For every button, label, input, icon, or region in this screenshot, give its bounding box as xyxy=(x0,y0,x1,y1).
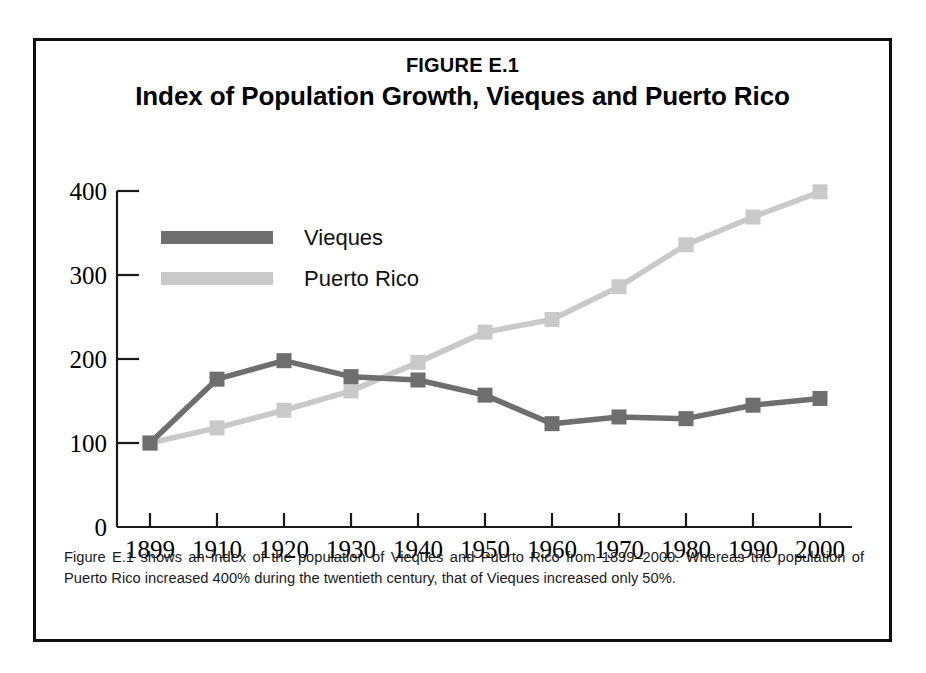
data-point-marker xyxy=(143,436,158,451)
data-point-marker xyxy=(746,398,761,413)
legend-label: Vieques xyxy=(304,225,383,250)
data-point-marker xyxy=(478,388,493,403)
y-axis-tick-label: 300 xyxy=(70,262,108,289)
legend-swatch xyxy=(161,231,273,244)
y-axis-tick-label: 100 xyxy=(70,430,108,457)
data-point-marker xyxy=(277,353,292,368)
data-point-marker xyxy=(612,409,627,424)
data-point-marker xyxy=(478,325,493,340)
data-point-marker xyxy=(344,369,359,384)
data-point-marker xyxy=(813,184,828,199)
data-point-marker xyxy=(210,372,225,387)
y-axis-tick-label: 400 xyxy=(70,178,108,205)
data-point-marker xyxy=(746,210,761,225)
data-point-marker xyxy=(411,355,426,370)
y-axis-tick-label: 200 xyxy=(70,346,108,373)
data-point-marker xyxy=(344,383,359,398)
data-point-marker xyxy=(679,411,694,426)
chart-legend: ViequesPuerto Rico xyxy=(161,225,419,291)
data-point-marker xyxy=(210,420,225,435)
data-point-marker xyxy=(813,391,828,406)
data-point-marker xyxy=(411,373,426,388)
y-axis-tick-label: 0 xyxy=(95,514,108,541)
figure-caption: Figure E.1 shows an index of the populat… xyxy=(64,547,864,589)
data-point-marker xyxy=(545,416,560,431)
data-point-marker xyxy=(679,237,694,252)
data-point-marker xyxy=(612,279,627,294)
chart-series-group xyxy=(143,184,828,450)
legend-label: Puerto Rico xyxy=(304,266,419,291)
legend-swatch xyxy=(161,272,273,285)
series-line-puerto-rico xyxy=(150,192,820,443)
figure-container: FIGURE E.1 Index of Population Growth, V… xyxy=(33,38,892,642)
y-axis: 0100200300400 xyxy=(70,178,140,541)
data-point-marker xyxy=(277,403,292,418)
data-point-marker xyxy=(545,312,560,327)
